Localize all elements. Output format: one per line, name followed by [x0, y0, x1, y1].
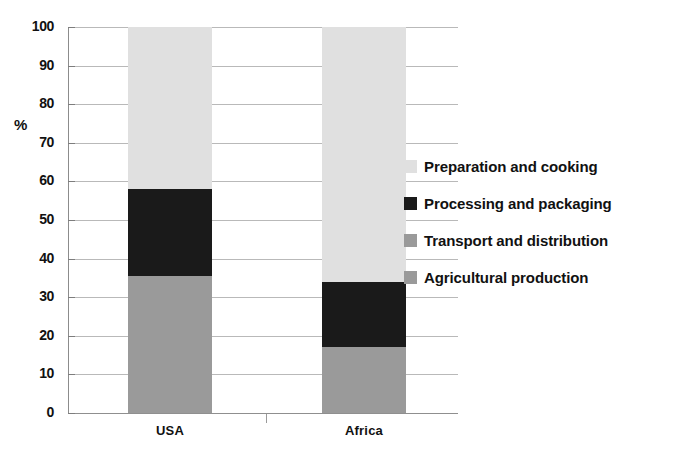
- y-axis-tick-label: 0: [47, 404, 54, 420]
- bar-segment[interactable]: [322, 27, 406, 282]
- category-label-usa: USA: [108, 423, 232, 438]
- legend-item[interactable]: Agricultural production: [404, 259, 612, 296]
- y-axis-tick-label: 10: [39, 365, 54, 381]
- y-axis-tick-label: 90: [39, 57, 54, 73]
- legend-label: Agricultural production: [424, 269, 588, 286]
- bar-usa[interactable]: [128, 27, 212, 413]
- y-axis-tick-label: 100: [32, 18, 54, 34]
- y-axis-tick-label: 50: [39, 211, 54, 227]
- x-axis-tick-mark: [266, 414, 267, 423]
- legend-item[interactable]: Processing and packaging: [404, 185, 612, 222]
- legend-swatch-icon: [404, 234, 417, 247]
- legend-item[interactable]: Transport and distribution: [404, 222, 612, 259]
- y-axis-tick-label: 20: [39, 327, 54, 343]
- y-axis-tick-label: 40: [39, 250, 54, 266]
- y-axis-tick-label: 70: [39, 134, 54, 150]
- y-axis-tick-label: 80: [39, 95, 54, 111]
- legend-swatch-icon: [404, 197, 417, 210]
- y-axis-tick-mark: [68, 413, 75, 414]
- legend-swatch-icon: [404, 271, 417, 284]
- bar-segment[interactable]: [128, 276, 212, 413]
- bar-africa[interactable]: [322, 27, 406, 413]
- y-axis-unit-label: %: [14, 116, 27, 133]
- y-axis-tick-label: 60: [39, 172, 54, 188]
- legend-label: Preparation and cooking: [424, 158, 598, 175]
- bar-segment[interactable]: [128, 189, 212, 276]
- legend-label: Processing and packaging: [424, 195, 612, 212]
- legend-item[interactable]: Preparation and cooking: [404, 148, 612, 185]
- y-axis-tick-label: 30: [39, 288, 54, 304]
- plot-area: [69, 27, 458, 413]
- legend-swatch-icon: [404, 160, 417, 173]
- stacked-bar-chart: % 1009080706050403020100 USAAfrica Prepa…: [0, 0, 679, 458]
- bar-segment[interactable]: [128, 27, 212, 189]
- chart-legend: Preparation and cookingProcessing and pa…: [404, 148, 612, 296]
- legend-label: Transport and distribution: [424, 232, 608, 249]
- bar-segment[interactable]: [322, 282, 406, 348]
- bar-segment[interactable]: [322, 347, 406, 413]
- gridline: [69, 413, 458, 414]
- category-label-africa: Africa: [302, 423, 426, 438]
